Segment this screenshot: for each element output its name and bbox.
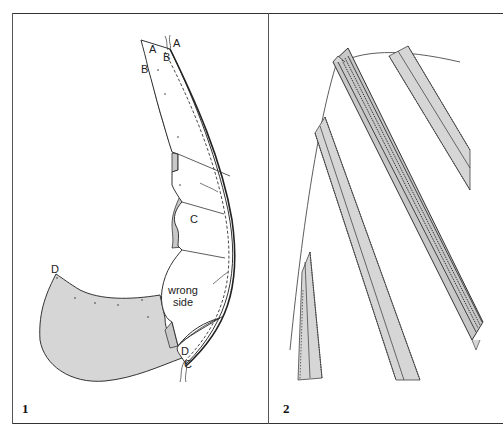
label-c-mid: C (190, 214, 198, 225)
panel-2-pressed-seams: 2 (269, 14, 503, 423)
wrong-side-label-line2: side (168, 296, 198, 308)
panel-2-illustration (269, 14, 503, 423)
wrong-side-label: wrong side (168, 284, 198, 308)
label-c-bottom: C (184, 359, 192, 370)
wrong-side-label-line1: wrong (168, 284, 198, 296)
sewing-instruction-figure: A A B B C D D C wrong side 1 (0, 0, 503, 428)
panel-number-2: 2 (283, 401, 290, 417)
panel-number-1: 1 (22, 401, 29, 417)
frame-border-bottom (12, 423, 503, 424)
label-b-left: B (141, 64, 148, 75)
label-a-left: A (149, 44, 156, 55)
label-d-bottom: D (181, 346, 189, 357)
label-d-left: D (51, 264, 59, 275)
panel-1-sleeve-placket: A A B B C D D C wrong side 1 (13, 14, 268, 423)
panel-1-illustration (13, 14, 268, 423)
label-a-right: A (173, 38, 180, 49)
label-b-right: B (163, 52, 170, 63)
